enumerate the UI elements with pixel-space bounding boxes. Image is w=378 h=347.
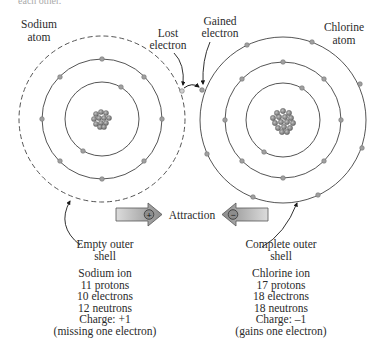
chlorine-atom-label: Chlorine atom (324, 21, 364, 46)
attraction-label: Attraction (169, 209, 216, 221)
svg-text:atom: atom (333, 34, 356, 46)
sodium-ion-title: Sodium ion (40, 268, 170, 280)
svg-text:−: − (230, 210, 235, 220)
ionic-bond-diagram: each other. (0, 0, 378, 347)
lost-electron (180, 89, 185, 94)
lost-electron-label: Lost electron (149, 27, 186, 51)
complete-outer-shell-label: Complete outer shell (226, 238, 336, 262)
gained-electron-label: Gained electron (201, 15, 238, 39)
svg-text:+: + (146, 210, 151, 220)
svg-text:atom: atom (28, 31, 51, 43)
chlorine-ion-info: Chlorine ion 17 protons 18 electrons 18 … (216, 268, 346, 338)
attraction-arrow-right: + (116, 203, 162, 226)
clipped-header-text: each other. (18, 0, 61, 6)
sodium-nucleus (91, 109, 111, 129)
sodium-atom-label: Sodium atom (21, 18, 57, 43)
attraction-arrow-left: − (222, 203, 268, 226)
chlorine-nucleus (270, 108, 295, 134)
chlorine-atom (200, 37, 366, 203)
chlorine-ion-title: Chlorine ion (216, 268, 346, 280)
svg-text:Lost: Lost (158, 27, 179, 39)
electron-transfer-arrow (184, 85, 199, 88)
svg-text:electron: electron (201, 27, 238, 39)
gained-electron (200, 88, 205, 93)
svg-text:Gained: Gained (203, 15, 236, 27)
svg-text:Chlorine: Chlorine (324, 21, 364, 33)
sodium-ion-info: Sodium ion 11 protons 10 electrons 12 ne… (40, 268, 170, 338)
svg-text:electron: electron (149, 39, 186, 51)
sodium-atom (19, 36, 185, 202)
svg-text:Sodium: Sodium (21, 18, 57, 30)
gained-electron-pointer (203, 42, 210, 84)
empty-outer-shell-label: Empty outer shell (50, 238, 160, 262)
sodium-ion-note: (missing one electron) (40, 326, 170, 338)
chlorine-ion-note: (gains one electron) (216, 326, 346, 338)
